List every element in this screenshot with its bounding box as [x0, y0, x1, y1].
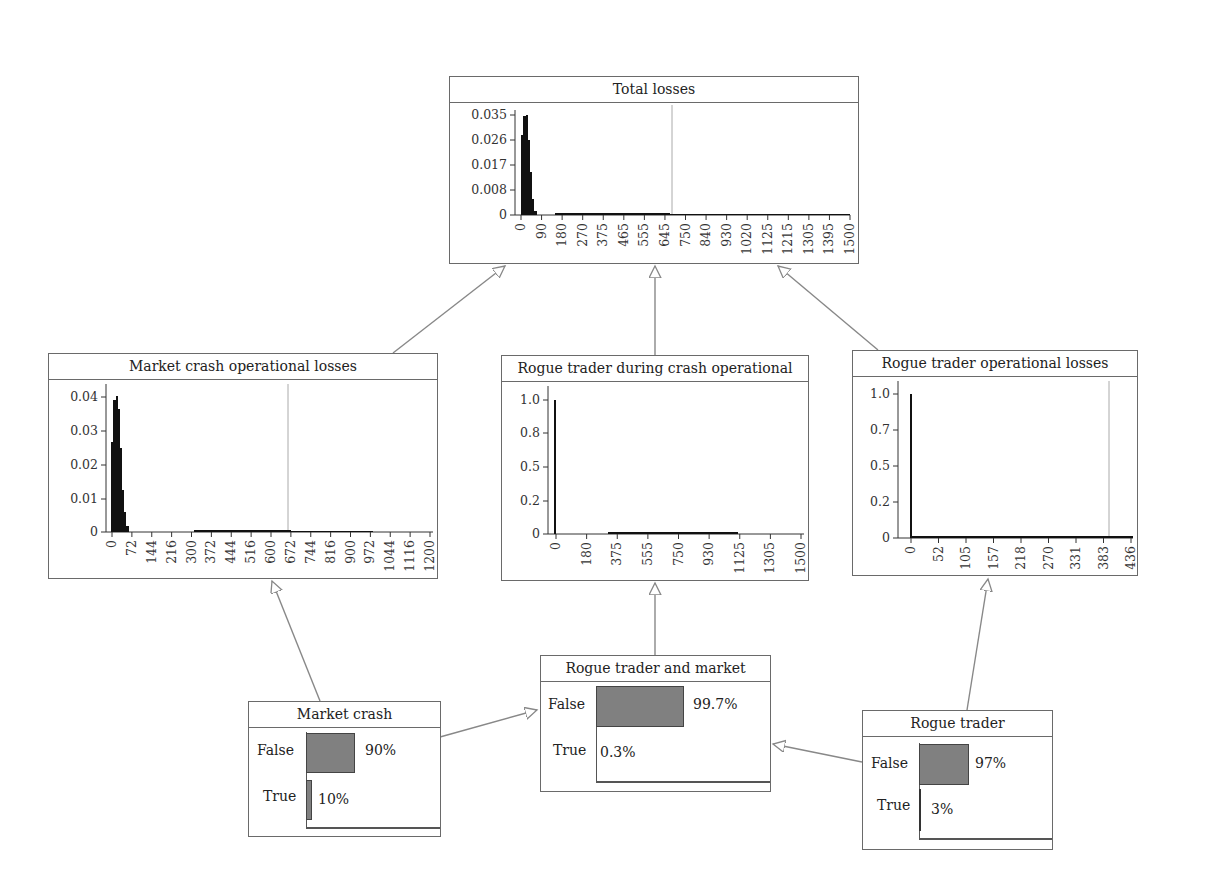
node-rogue-trader-operational-losses[interactable]: Rogue trader operational losses 1.0 0.7 …	[852, 350, 1138, 576]
x-tick-label: 645	[657, 223, 672, 247]
x-tick-label: 1125	[760, 223, 775, 255]
node-rogue-trader-during-crash-operational[interactable]: Rogue trader during crash operational 1.…	[501, 355, 809, 581]
svg-text:0.02: 0.02	[70, 457, 98, 472]
state-bar-false	[306, 733, 355, 773]
x-tick-label: 1305	[762, 542, 777, 574]
x-tick-label: 900	[343, 540, 358, 564]
state-bar-true	[306, 780, 312, 820]
node-rogue-trader-and-market[interactable]: Rogue trader and market False 99.7% True…	[540, 655, 771, 792]
svg-text:0.5: 0.5	[870, 458, 890, 473]
x-axis-ticks: 0721442163003724445166006727448169009721…	[104, 532, 437, 572]
svg-text:0.008: 0.008	[471, 182, 507, 197]
svg-text:0: 0	[532, 526, 540, 541]
x-tick-label: 555	[636, 223, 651, 247]
svg-text:0.03: 0.03	[70, 423, 98, 438]
x-tick-label: 444	[223, 540, 238, 564]
state-label-false: False	[871, 755, 908, 771]
x-tick-label: 1215	[780, 223, 795, 255]
x-tick-label: 1500	[842, 223, 857, 255]
x-tick-label: 555	[640, 542, 655, 566]
x-tick-label: 180	[579, 542, 594, 566]
histogram-bars	[521, 115, 850, 215]
edge-market-crash-op-to-total	[393, 266, 505, 353]
x-tick-label: 0	[104, 540, 119, 548]
state-label-true: True	[877, 797, 910, 813]
x-tick-label: 930	[719, 223, 734, 247]
x-tick-label: 331	[1068, 546, 1083, 570]
state-value-true: 10%	[318, 791, 349, 807]
x-tick-label: 600	[263, 540, 278, 564]
x-tick-label: 516	[243, 540, 258, 564]
node-title: Market crash	[249, 702, 440, 728]
state-label-false: False	[548, 696, 585, 712]
node-total-losses[interactable]: Total losses 0.035 0.026 0.017 0.008 0 0…	[449, 76, 859, 264]
x-tick-label: 52	[931, 546, 946, 562]
state-label-false: False	[257, 742, 294, 758]
x-tick-label: 0	[513, 223, 528, 231]
state-value-true: 0.3%	[600, 744, 636, 760]
x-tick-label: 270	[575, 223, 590, 247]
edge-rogue-trader-op-to-total	[778, 266, 878, 350]
state-value-false: 99.7%	[693, 696, 737, 712]
x-tick-label: 218	[1013, 546, 1028, 570]
x-tick-label: 157	[986, 546, 1001, 570]
state-bar-false	[596, 686, 684, 727]
x-tick-label: 744	[303, 540, 318, 564]
x-tick-label: 1395	[821, 223, 836, 255]
state-label-true: True	[263, 788, 296, 804]
histogram-chart: 0.035 0.026 0.017 0.008 0 09018027037546…	[450, 77, 860, 265]
edge-market-crash-to-market-crash-op	[272, 581, 320, 701]
histogram-bars	[910, 394, 1133, 538]
x-tick-label: 816	[323, 540, 338, 564]
node-rogue-trader[interactable]: Rogue trader False 97% True 3%	[862, 710, 1053, 850]
x-tick-label: 0	[548, 542, 563, 550]
node-market-crash-operational-losses[interactable]: Market crash operational losses 0.04 0.0…	[48, 353, 438, 579]
edge-rogue-trader-to-rogue-and-market	[773, 744, 862, 762]
x-tick-label: 930	[701, 542, 716, 566]
svg-text:0.026: 0.026	[471, 132, 507, 147]
svg-text:0.5: 0.5	[520, 459, 540, 474]
x-axis-ticks: 0180375555750930112513051500	[548, 534, 808, 574]
x-tick-label: 672	[283, 540, 298, 564]
svg-text:0.7: 0.7	[870, 422, 890, 437]
x-tick-label: 1044	[382, 540, 397, 572]
x-tick-label: 375	[595, 223, 610, 247]
x-tick-label: 372	[203, 540, 218, 564]
x-tick-label: 750	[671, 542, 686, 566]
x-tick-label: 1116	[402, 540, 417, 572]
node-title: Rogue trader	[863, 711, 1052, 737]
svg-text:0.04: 0.04	[70, 389, 98, 404]
x-tick-label: 216	[164, 540, 179, 564]
edge-market-crash-to-rogue-and-market	[440, 710, 537, 737]
svg-text:0.017: 0.017	[471, 157, 507, 172]
state-value-true: 3%	[931, 801, 953, 817]
node-title: Rogue trader and market	[541, 656, 770, 682]
svg-text:0.2: 0.2	[520, 493, 540, 508]
svg-text:0.2: 0.2	[870, 494, 890, 509]
state-value-false: 97%	[975, 755, 1006, 771]
x-tick-label: 72	[124, 540, 139, 556]
svg-text:1.0: 1.0	[870, 386, 890, 401]
svg-text:0: 0	[882, 530, 890, 545]
x-tick-label: 1500	[793, 542, 808, 574]
x-tick-label: 1305	[801, 223, 816, 255]
x-tick-label: 0	[903, 546, 918, 554]
histogram-bars	[111, 396, 373, 532]
x-axis-ticks: 052105157218270331383436	[903, 538, 1138, 570]
x-tick-label: 383	[1096, 546, 1111, 570]
x-tick-label: 105	[958, 546, 973, 570]
bar-axis-baseline	[596, 781, 770, 783]
state-label-true: True	[553, 742, 586, 758]
histogram-bars	[554, 400, 738, 534]
state-bar-true	[919, 789, 921, 831]
state-bar-false	[919, 744, 969, 785]
x-axis-ticks: 0901802703754655556457508409301020112512…	[513, 215, 857, 255]
edge-rogue-trader-to-rogue-trader-op	[967, 579, 988, 710]
svg-text:0: 0	[499, 207, 507, 222]
svg-text:0: 0	[90, 524, 98, 539]
x-tick-label: 270	[1041, 546, 1056, 570]
histogram-chart: 0.04 0.03 0.02 0.01 0 072144216300372444…	[49, 354, 439, 580]
x-tick-label: 840	[698, 223, 713, 247]
node-market-crash[interactable]: Market crash False 90% True 10%	[248, 701, 441, 837]
x-tick-label: 375	[609, 542, 624, 566]
